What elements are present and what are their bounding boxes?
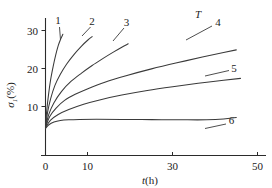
y-axis-title-group: σ1(%) (4, 82, 19, 108)
axes-group (41, 18, 266, 156)
leader-line-4 (186, 26, 212, 40)
curves-group (46, 34, 241, 128)
temperature-annotation: T (195, 8, 202, 20)
curve-path-5 (46, 78, 241, 127)
leader-line-1 (60, 27, 61, 40)
x-tick-label-10: 10 (82, 160, 94, 172)
leader-line-6 (205, 124, 226, 129)
curve-label-6: 6 (229, 114, 235, 126)
curve-label-3: 3 (124, 16, 130, 28)
x-tick-label-30: 30 (167, 160, 179, 172)
y-ticks-group (42, 31, 46, 107)
y-axis-title: σ1(%) (4, 82, 19, 108)
x-tick-label-50: 50 (252, 160, 264, 172)
leader-line-3 (113, 28, 124, 41)
curve-label-4: 4 (215, 16, 221, 28)
leader-line-5 (205, 71, 229, 77)
y-tick-label-20: 20 (27, 63, 39, 75)
x-tick-label-0: 0 (43, 160, 49, 172)
curve-path-4 (46, 50, 237, 128)
curve-path-2 (46, 37, 93, 128)
y-axis-unit: (%) (4, 82, 17, 99)
leader-lines-group (60, 26, 230, 129)
y-tick-label-10: 10 (27, 101, 39, 113)
curve-label-5: 5 (231, 62, 237, 74)
curve-label-2: 2 (89, 15, 95, 27)
y-tick-label-30: 30 (27, 25, 39, 37)
x-axis-title: t(h) (142, 174, 158, 187)
curve-path-6 (46, 118, 237, 129)
leader-line-2 (82, 27, 91, 36)
chart-svg: 30 20 10 0 10 30 50 σ1(%) t(h) (0, 0, 272, 188)
creep-curve-chart: 30 20 10 0 10 30 50 σ1(%) t(h) (0, 0, 272, 188)
curve-label-1: 1 (55, 14, 61, 26)
x-axis-unit: (h) (145, 174, 158, 187)
